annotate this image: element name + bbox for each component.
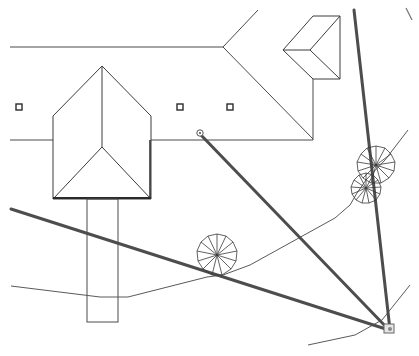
driveway	[87, 199, 118, 322]
roof-wing-left	[53, 66, 151, 199]
square-marker-2[interactable]	[177, 104, 183, 110]
square-markers	[16, 104, 233, 110]
origin-point[interactable]	[197, 130, 203, 136]
square-marker-3[interactable]	[227, 104, 233, 110]
survey-lines	[11, 8, 412, 330]
roof-wing-right	[283, 16, 340, 79]
square-marker-1[interactable]	[16, 104, 22, 110]
tree-1[interactable]	[197, 234, 237, 275]
building-main	[10, 10, 313, 140]
survey-line-north	[354, 10, 390, 330]
site-plan-canvas[interactable]	[0, 0, 419, 356]
station-point[interactable]	[384, 324, 394, 333]
contour-lines	[11, 130, 410, 345]
